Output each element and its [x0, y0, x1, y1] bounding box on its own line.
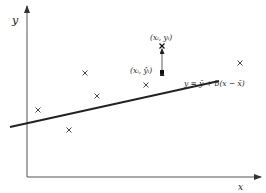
x-axis-label: x	[238, 182, 243, 192]
data-point-marker	[144, 83, 149, 88]
observed-point-marker	[160, 44, 165, 49]
y-axis-label: y	[11, 14, 19, 27]
data-point-marker	[83, 71, 88, 76]
data-point-marker	[36, 108, 41, 113]
data-point-marker	[95, 94, 100, 99]
observed-point-label: (xᵢ, yᵢ)	[150, 33, 172, 42]
regression-equation: y = ȳ + b(x − x̄)	[183, 79, 245, 88]
data-point-marker	[238, 61, 243, 66]
data-point-marker	[67, 128, 72, 133]
fitted-point-marker	[160, 70, 164, 74]
regression-diagram: y x (xᵢ, yᵢ) (xᵢ, ŷᵢ) y = ȳ + b(x − x̄)	[0, 0, 266, 193]
fitted-point-label: (xᵢ, ŷᵢ)	[130, 66, 152, 75]
